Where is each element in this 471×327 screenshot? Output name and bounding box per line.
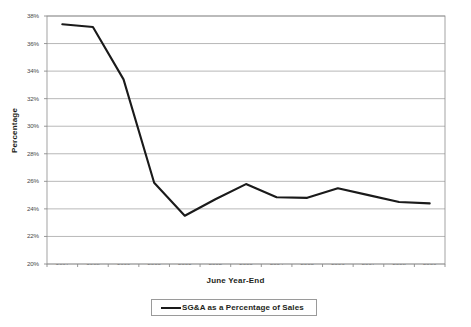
legend-label: SG&A as a Percentage of Sales: [182, 303, 304, 312]
legend-line-swatch: [161, 307, 181, 309]
x-tick-marks: [47, 264, 445, 267]
plot-background: [47, 16, 445, 264]
chart-figure: Percentage June Year-End 20%22%24%26%28%…: [0, 0, 471, 327]
plot-area: [0, 0, 471, 327]
chart-legend: SG&A as a Percentage of Sales: [151, 299, 317, 316]
